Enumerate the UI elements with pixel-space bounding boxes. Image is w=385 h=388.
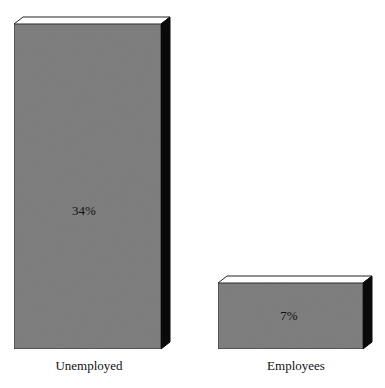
bar-employees-value-label: 7% [280, 308, 298, 323]
bar-employees-side-face [363, 276, 372, 349]
category-label-unemployed: Unemployed [19, 359, 159, 373]
bar-unemployed: 34% [14, 17, 170, 349]
bar-unemployed-value-label: 34% [72, 203, 96, 218]
bar-chart: 34% 7% [0, 0, 385, 388]
bar-unemployed-side-face [161, 17, 170, 349]
bar-employees: 7% [218, 276, 372, 349]
bar-employees-top-face [218, 276, 372, 283]
bar-unemployed-front-face [14, 24, 161, 349]
bar-unemployed-top-face [14, 17, 170, 24]
category-label-employees: Employees [226, 359, 366, 373]
